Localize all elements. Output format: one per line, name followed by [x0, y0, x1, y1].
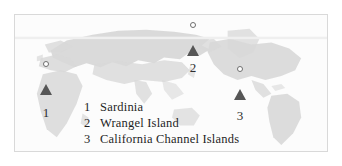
legend-number: 1 [84, 99, 100, 115]
map-legend: 1 Sardinia 2 Wrangel Island 3 California… [84, 99, 239, 147]
legend-label: Sardinia [100, 99, 143, 115]
marker-number-2: 2 [190, 61, 197, 74]
legend-number: 2 [84, 115, 100, 131]
legend-item: 2 Wrangel Island [84, 115, 239, 131]
legend-number: 3 [84, 131, 100, 147]
legend-label: Wrangel Island [100, 115, 179, 131]
arrow-up-icon [40, 67, 52, 85]
arrow-up-icon [187, 28, 199, 46]
map-figure: 1 2 3 1 Sardinia 2 Wrangel Island 3 Cali… [0, 0, 342, 166]
legend-item: 1 Sardinia [84, 99, 239, 115]
marker-number-1: 1 [43, 106, 50, 119]
legend-item: 3 California Channel Islands [84, 131, 239, 147]
legend-label: California Channel Islands [100, 131, 239, 147]
arrow-up-icon [234, 72, 246, 90]
